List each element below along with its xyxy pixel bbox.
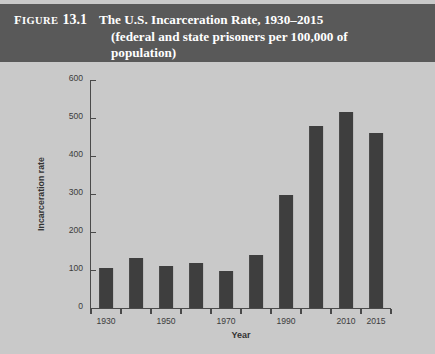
y-tick-mark <box>91 194 96 195</box>
chart-panel: Incarceration rate 0100200300400500600 1… <box>32 72 407 334</box>
y-tick-label: 200 <box>69 225 83 235</box>
x-tick-label: 2010 <box>336 316 355 326</box>
y-tick-mark <box>91 270 96 271</box>
figure-label-initial: F <box>14 13 22 27</box>
x-tick-mark <box>150 309 151 314</box>
figure-label-rest: IGURE <box>22 15 58 26</box>
x-tick-label: 1950 <box>156 316 175 326</box>
x-tick-mark <box>270 309 271 314</box>
y-tick-label: 300 <box>69 187 83 197</box>
y-axis-title: Incarceration rate <box>36 157 46 231</box>
x-tick-mark <box>240 309 241 314</box>
bar <box>99 268 113 308</box>
x-tick-mark <box>180 309 181 314</box>
bar <box>339 112 353 308</box>
y-tick-label: 600 <box>69 73 83 83</box>
x-tick-label: 1990 <box>276 316 295 326</box>
y-tick-mark <box>91 118 96 119</box>
x-tick-mark <box>330 309 331 314</box>
bar <box>249 255 263 308</box>
bar <box>189 263 203 308</box>
bar <box>159 266 173 308</box>
y-tick-label: 400 <box>69 149 83 159</box>
figure-container: FIGURE13.1The U.S. Incarceration Rate, 1… <box>0 0 435 354</box>
plot-area: Incarceration rate 0100200300400500600 1… <box>90 80 391 309</box>
bar <box>279 195 293 308</box>
bar <box>219 271 233 308</box>
figure-label: FIGURE <box>14 15 58 26</box>
x-tick-label: 1930 <box>96 316 115 326</box>
x-tick-mark <box>120 309 121 314</box>
figure-title-line-3: population) <box>111 45 424 62</box>
figure-header-first-line: FIGURE13.1The U.S. Incarceration Rate, 1… <box>14 10 424 29</box>
bar <box>309 126 323 308</box>
x-axis-title: Year <box>231 330 250 340</box>
y-tick-mark <box>91 80 96 81</box>
x-tick-label: 1970 <box>216 316 235 326</box>
y-tick-label: 0 <box>78 301 83 311</box>
y-tick-mark <box>91 308 96 309</box>
bar <box>369 133 383 308</box>
figure-header-band: FIGURE13.1The U.S. Incarceration Rate, 1… <box>0 4 435 62</box>
figure-header-text: FIGURE13.1The U.S. Incarceration Rate, 1… <box>14 10 424 62</box>
x-tick-mark <box>360 309 361 314</box>
x-tick-mark <box>210 309 211 314</box>
figure-title-line-1: The U.S. Incarceration Rate, 1930–2015 <box>99 12 323 27</box>
figure-number: 13.1 <box>62 12 87 27</box>
y-tick-label: 500 <box>69 111 83 121</box>
y-tick-mark <box>91 156 96 157</box>
x-tick-mark <box>90 309 91 314</box>
x-tick-mark <box>300 309 301 314</box>
y-tick-mark <box>91 232 96 233</box>
figure-title-line-2: (federal and state prisoners per 100,000… <box>111 29 424 46</box>
x-tick-label: 2015 <box>366 316 385 326</box>
bar <box>129 258 143 308</box>
x-tick-mark <box>390 309 391 314</box>
y-tick-label: 100 <box>69 263 83 273</box>
